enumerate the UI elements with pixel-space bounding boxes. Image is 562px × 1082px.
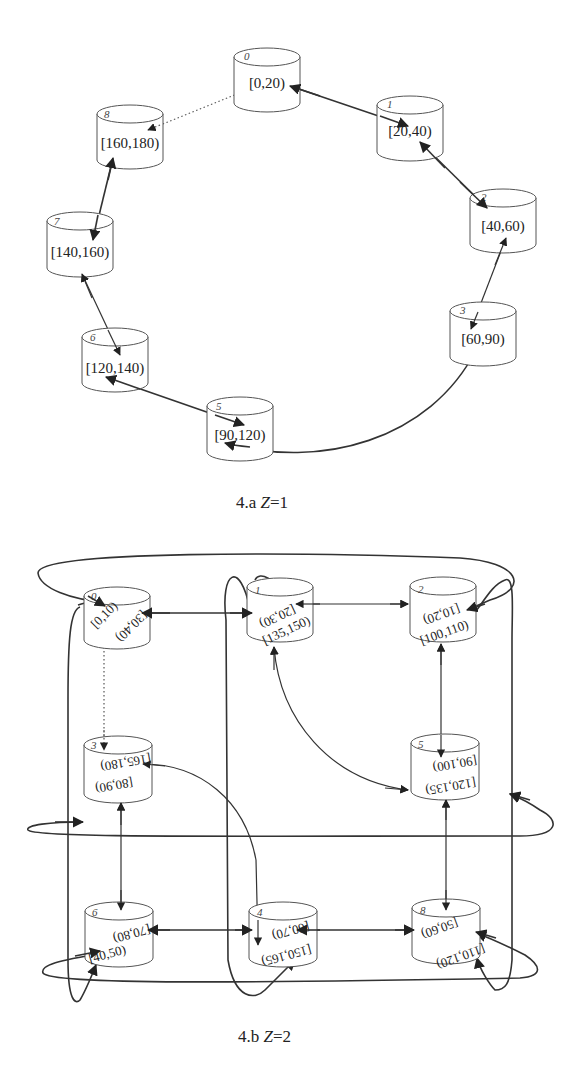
node-5: 5 [90,120)	[207, 397, 273, 461]
node-range-label: [60,90)	[461, 331, 505, 348]
node-id: 3	[459, 304, 466, 316]
caption-variable: Z	[264, 1027, 273, 1046]
node-2: 2 [40,60)	[470, 189, 536, 253]
node-id: 6	[92, 906, 98, 918]
node-id: 7	[54, 215, 60, 227]
node-id: 1	[255, 584, 261, 596]
figure-a: 0 [0,20) 1 [20,40) 2 [40,60) 3 [60,90)	[47, 48, 536, 461]
node-id: 8	[104, 108, 110, 120]
node-b-6: 6 [70,80) [40,50)	[85, 902, 153, 967]
node-id: 2	[418, 583, 424, 595]
node-3: 3 [60,90)	[450, 302, 516, 366]
node-id: 4	[257, 906, 263, 918]
node-b-4: 4 [60,70) [150,165)	[249, 902, 317, 970]
dht-ring-diagram: 0 [0,20) 1 [20,40) 2 [40,60) 3 [60,90)	[0, 0, 562, 1082]
node-b-5: 5 [90,100) [120,135)	[411, 734, 479, 800]
node-b-3: 3 [165,180) [80,90)	[84, 736, 152, 803]
node-id: 0	[244, 50, 250, 62]
node-range-label: [140,160)	[51, 244, 110, 261]
edge-1-5	[274, 647, 408, 790]
node-range-label: [0,20)	[249, 75, 285, 92]
node-b-8: 8 [50,60) [110,120)	[412, 899, 487, 973]
node-id: 5	[216, 400, 222, 412]
node-6: 6 [120,140)	[82, 328, 148, 392]
node-id: 3	[90, 739, 97, 751]
node-range-label: [90,120)	[214, 427, 265, 444]
edge-3-4	[143, 764, 258, 945]
node-id: 6	[90, 331, 96, 343]
caption-prefix: 4.a	[236, 493, 256, 512]
node-range-label: [40,60)	[481, 218, 525, 235]
node-0: 0 [0,20)	[234, 48, 300, 112]
node-b-1: 1 [20,30) [135,150)	[247, 578, 313, 648]
node-id: 1	[387, 98, 393, 110]
node-id: 5	[418, 738, 424, 750]
node-range-label: [120,140)	[86, 360, 145, 377]
caption-variable: Z	[261, 493, 270, 512]
node-1: 1 [20,40)	[377, 96, 443, 161]
caption-value: =2	[273, 1027, 291, 1046]
node-8: 8 [160,180)	[97, 105, 163, 169]
caption-figure-a: 4.a Z=1	[236, 493, 288, 513]
node-range-label: [20,40)	[388, 123, 432, 140]
caption-value: =1	[270, 493, 288, 512]
node-id: 2	[481, 191, 487, 203]
caption-figure-b: 4.b Z=2	[238, 1027, 291, 1047]
node-b-0: 0 [0,10) [30,40)	[84, 587, 150, 649]
node-id: 8	[420, 904, 426, 916]
node-range-label: [160,180)	[101, 135, 160, 152]
figure-b: 0 [0,10) [30,40) 1 [20,30) [135,150) 2 […	[28, 554, 553, 1002]
node-b-2: 2 [10,20) [100,110)	[410, 577, 476, 648]
caption-prefix: 4.b	[238, 1027, 259, 1046]
node-7: 7 [140,160)	[47, 212, 113, 277]
